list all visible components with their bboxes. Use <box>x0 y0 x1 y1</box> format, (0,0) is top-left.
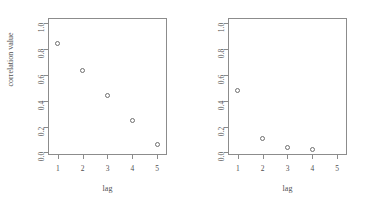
y-tick-label-left: 0.0 <box>38 152 46 172</box>
chart-panel-left: 0.00.20.40.60.81.012345 correlation valu… <box>0 0 184 210</box>
x-tick-label-left: 1 <box>51 165 65 173</box>
x-tick-right <box>337 155 338 159</box>
data-point <box>285 145 290 150</box>
figure-canvas: 0.00.20.40.60.81.012345 correlation valu… <box>0 0 368 210</box>
x-tick-label-right: 1 <box>231 165 245 173</box>
x-tick-right <box>312 155 313 159</box>
x-axis-title-left: lag <box>78 184 138 193</box>
y-tick-label-right: 0.2 <box>218 126 226 146</box>
y-tick-label-right: 0.0 <box>218 152 226 172</box>
plot-frame-left <box>48 18 167 155</box>
x-tick-label-left: 4 <box>125 165 139 173</box>
x-tick-label-right: 5 <box>330 165 344 173</box>
x-tick-right <box>287 155 288 159</box>
x-tick-left <box>157 155 158 159</box>
y-tick-label-left: 1.0 <box>38 23 46 43</box>
x-tick-left <box>83 155 84 159</box>
y-tick-label-right: 0.8 <box>218 49 226 69</box>
plot-frame-right <box>228 18 347 155</box>
chart-panel-right: 0.00.20.40.60.81.012345 lag <box>184 0 368 210</box>
x-tick-label-left: 3 <box>101 165 115 173</box>
y-tick-label-right: 1.0 <box>218 23 226 43</box>
x-tick-right <box>263 155 264 159</box>
data-point <box>130 118 135 123</box>
x-tick-label-right: 3 <box>281 165 295 173</box>
x-tick-label-right: 4 <box>305 165 319 173</box>
y-tick-label-left: 0.6 <box>38 75 46 95</box>
x-tick-label-left: 2 <box>76 165 90 173</box>
x-axis-title-right: lag <box>258 184 318 193</box>
x-tick-left <box>132 155 133 159</box>
x-tick-label-left: 5 <box>150 165 164 173</box>
y-tick-label-left: 0.8 <box>38 49 46 69</box>
x-tick-left <box>107 155 108 159</box>
y-tick-label-left: 0.4 <box>38 100 46 120</box>
x-tick-right <box>238 155 239 159</box>
y-tick-label-right: 0.6 <box>218 75 226 95</box>
x-tick-label-right: 2 <box>256 165 270 173</box>
x-tick-left <box>58 155 59 159</box>
y-tick-label-left: 0.2 <box>38 126 46 146</box>
data-point <box>260 136 265 141</box>
data-point <box>155 142 160 147</box>
y-tick-label-right: 0.4 <box>218 100 226 120</box>
